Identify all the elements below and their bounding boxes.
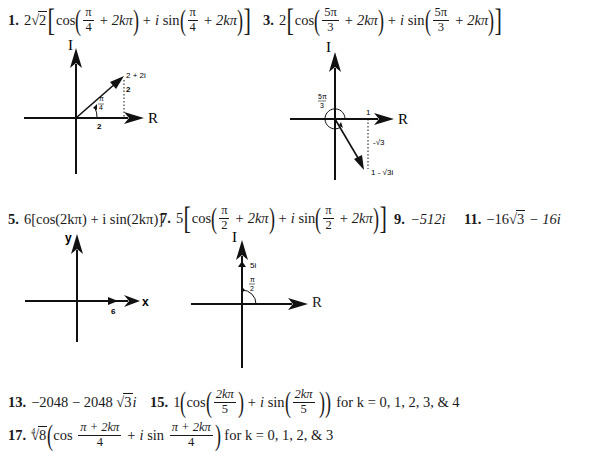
svg-text:5π: 5π — [318, 93, 327, 100]
point-label: 2 + 2i — [126, 71, 146, 80]
problem-17: 17. 4√8 ( cos π + 2kπ4 + i sin π + 2kπ4 … — [8, 418, 333, 452]
svg-text:4: 4 — [99, 104, 103, 111]
fraction: 5π3 — [433, 6, 450, 35]
fraction: π2 — [323, 204, 333, 233]
svg-text:π: π — [250, 276, 255, 283]
fraction: π2 — [219, 204, 229, 233]
vector-arrow-icon — [108, 297, 118, 305]
problem-number: 9. — [394, 211, 405, 228]
problem-number: 17. — [8, 427, 26, 444]
diagram-7-x-axis-label: R — [312, 294, 322, 311]
k-values: for k = 0, 1, 2, & 3 — [224, 427, 333, 444]
problem-number: 1. — [8, 12, 19, 29]
vector-arrow-icon — [238, 261, 246, 267]
fraction: π4 — [83, 6, 93, 35]
svg-text:1: 1 — [366, 108, 371, 117]
fraction: 2kπ5 — [293, 388, 315, 417]
fraction: π + 2kπ4 — [170, 421, 213, 450]
problem-9: 9. −512i — [394, 204, 445, 234]
y-axis-label: I — [68, 40, 73, 53]
coefficient: 2 — [24, 12, 31, 29]
diagram-5-plane: y x 6 — [0, 230, 160, 380]
coefficient: 2 — [279, 12, 286, 29]
problem-11: 11. −16√3 − 16i — [464, 204, 561, 234]
problem-3: 3. 2 [ cos ( 5π3 + 2kπ ) + i sin ( 5π3 +… — [263, 2, 503, 38]
answer-text: 6[cos(2kπ) + i sin(2kπ)] — [24, 211, 163, 228]
svg-text:5i: 5i — [250, 261, 256, 270]
svg-text:6: 6 — [111, 307, 116, 316]
svg-text:π: π — [99, 95, 104, 102]
problem-number: 5. — [8, 211, 19, 228]
problem-15: 15. 1 ( cos ( 2kπ5 ) + i sin ( 2kπ5 )) f… — [150, 384, 460, 420]
answer-text: −512i — [410, 211, 446, 228]
radicand: 2 — [38, 11, 47, 29]
svg-text:-√3: -√3 — [373, 138, 385, 147]
y-axis-label: y — [65, 231, 72, 245]
diagram-3-complex-plane: I R 1 -√3 1 - √3i 5π 3 — [290, 40, 450, 215]
fraction: 2kπ5 — [214, 388, 236, 417]
bracket-open: [ — [48, 4, 55, 36]
problem-13: 13. −2048 − 2048 √3i — [8, 386, 137, 418]
problem-number: 7. — [160, 210, 171, 227]
problem-number: 11. — [464, 211, 481, 228]
fraction: 5π3 — [322, 6, 339, 35]
problem-1: 1. 2√2 [ cos ( π4 + 2kπ ) + i sin ( π4 +… — [8, 2, 252, 38]
problem-number: 13. — [8, 394, 26, 411]
y-axis-label: I — [232, 230, 237, 245]
fraction: π4 — [188, 6, 198, 35]
svg-text:2: 2 — [250, 285, 254, 292]
problem-number: 15. — [150, 394, 168, 411]
svg-text:2: 2 — [97, 122, 102, 131]
diagram-1-complex-plane: I R 2 + 2i 2 2 π 4 — [0, 40, 200, 210]
problem-number: 3. — [263, 12, 274, 29]
point-label: 1 - √3i — [371, 168, 393, 177]
y-axis-label: I — [326, 40, 331, 55]
x-axis-label: R — [398, 111, 408, 127]
x-axis-label: R — [148, 110, 158, 126]
x-axis-label: x — [142, 295, 149, 309]
fraction: π + 2kπ4 — [78, 421, 121, 450]
svg-text:3: 3 — [320, 102, 324, 109]
cos-label: cos — [56, 12, 75, 29]
vector-arrow-icon — [354, 155, 364, 170]
k-values: for k = 0, 1, 2, 3, & 4 — [336, 394, 459, 411]
diagram-7-complex-plane: I 5i π 2 — [180, 230, 310, 380]
svg-text:2: 2 — [126, 85, 131, 94]
bracket-close: ] — [244, 4, 251, 36]
